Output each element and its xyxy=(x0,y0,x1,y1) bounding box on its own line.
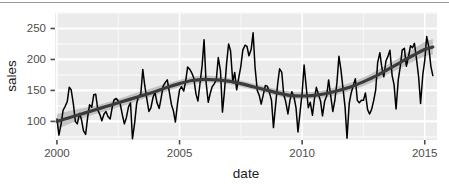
y-axis: 100150200250 xyxy=(27,22,55,127)
chart-container: 100150200250 2000200520102015 sales date xyxy=(0,0,449,184)
x-tick-label: 2015 xyxy=(412,147,438,159)
x-tick-label: 2005 xyxy=(167,147,193,159)
x-axis-title: date xyxy=(233,166,259,181)
x-axis: 2000200520102015 xyxy=(44,140,437,159)
y-tick-label: 250 xyxy=(27,22,46,34)
y-tick-label: 150 xyxy=(27,84,46,96)
y-tick-label: 200 xyxy=(27,53,46,65)
y-tick-label: 100 xyxy=(27,115,46,127)
x-tick-label: 2010 xyxy=(289,147,315,159)
y-axis-title: sales xyxy=(4,60,19,92)
x-tick-label: 2000 xyxy=(44,147,70,159)
top-border-rule xyxy=(0,2,449,3)
sales-over-date-line-chart: 100150200250 2000200520102015 sales date xyxy=(0,0,449,184)
